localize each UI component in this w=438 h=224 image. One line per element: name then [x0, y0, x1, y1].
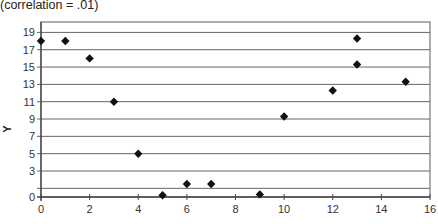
y-tick-label: 0 — [29, 191, 35, 203]
data-point-diamond — [329, 86, 337, 94]
y-tick-label: 9 — [29, 113, 35, 125]
data-point-diamond — [37, 37, 45, 45]
scatter-plot: 0357911131517190246810121416 — [0, 0, 438, 224]
y-tick-label: 19 — [23, 26, 35, 38]
x-tick-label: 0 — [38, 203, 44, 215]
data-point-diamond — [110, 98, 118, 106]
y-tick-label: 17 — [23, 44, 35, 56]
data-point-diamond — [61, 37, 69, 45]
data-point-diamond — [183, 180, 191, 188]
y-tick-label: 7 — [29, 130, 35, 142]
data-point-diamond — [207, 180, 215, 188]
y-tick-label: 11 — [24, 96, 35, 108]
x-tick-label: 12 — [327, 203, 339, 215]
x-tick-label: 2 — [87, 203, 93, 215]
y-tick-label: 15 — [23, 61, 35, 73]
data-point-diamond — [158, 191, 166, 199]
data-point-diamond — [134, 149, 142, 157]
x-tick-label: 8 — [232, 203, 238, 215]
y-tick-label: 5 — [29, 148, 35, 160]
y-tick-label: 3 — [29, 165, 35, 177]
data-point-diamond — [353, 34, 361, 42]
x-tick-label: 16 — [424, 203, 436, 215]
y-tick-label: 13 — [23, 78, 35, 90]
x-tick-label: 14 — [375, 203, 387, 215]
data-point-diamond — [85, 54, 93, 62]
x-tick-label: 4 — [135, 203, 141, 215]
x-tick-label: 6 — [184, 203, 190, 215]
x-tick-label: 10 — [278, 203, 290, 215]
